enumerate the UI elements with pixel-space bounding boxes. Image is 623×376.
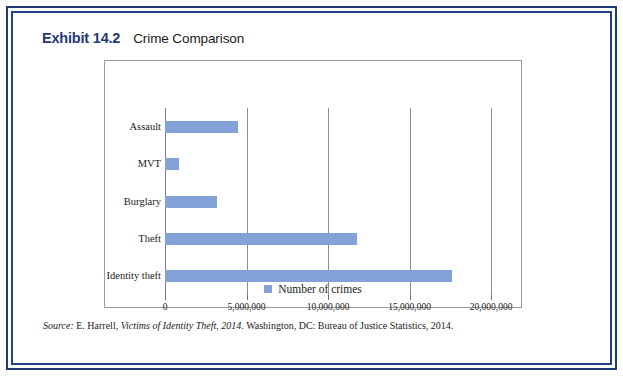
bar [165, 270, 452, 282]
chart-bars: AssaultMVTBurglaryTheftIdentity theft [165, 108, 491, 295]
chart-plot-area: AssaultMVTBurglaryTheftIdentity theft 05… [165, 108, 491, 303]
bar-row: Assault [165, 121, 238, 133]
bar-category-label: Identity theft [106, 270, 161, 282]
exhibit-number: Exhibit 14.2 [42, 30, 120, 46]
source-author: E. Harrell, [74, 320, 121, 331]
exhibit-figure: Exhibit 14.2Crime Comparison AssaultMVTB… [0, 0, 623, 376]
bar [165, 121, 238, 133]
chart-x-axis: 05,000,00010,000,00015,000,00020,000,000 [165, 295, 491, 303]
bar-row: Burglary [165, 196, 217, 208]
x-tick-label: 20,000,000 [470, 302, 513, 312]
exhibit-title: Crime Comparison [133, 31, 244, 46]
x-tick-mark [491, 295, 492, 300]
legend-color-swatch [264, 285, 272, 293]
source-work-title: Victims of Identity Theft, 2014 [121, 320, 242, 331]
bar-category-label: Theft [138, 233, 161, 245]
chart-legend: Number of crimes [105, 283, 521, 295]
x-tick-label: 15,000,000 [388, 302, 431, 312]
x-tick-mark [410, 295, 411, 300]
bar [165, 158, 179, 170]
bar-category-label: Assault [130, 121, 162, 133]
bar-category-label: MVT [138, 158, 161, 170]
source-prefix: Source: [43, 320, 74, 331]
bar [165, 233, 357, 245]
source-publisher: . Washington, DC: Bureau of Justice Stat… [241, 320, 453, 331]
bar-category-label: Burglary [124, 196, 161, 208]
bar-row: MVT [165, 158, 179, 170]
x-tick-mark [328, 295, 329, 300]
source-note: Source: E. Harrell, Victims of Identity … [43, 319, 588, 332]
x-tick-label: 10,000,000 [307, 302, 350, 312]
exhibit-header: Exhibit 14.2Crime Comparison [42, 29, 244, 47]
legend-label: Number of crimes [278, 283, 362, 295]
x-tick-label: 5,000,000 [228, 302, 266, 312]
gridline-4 [491, 108, 492, 295]
x-tick-label: 0 [163, 302, 168, 312]
x-tick-mark [247, 295, 248, 300]
chart-plot-frame: AssaultMVTBurglaryTheftIdentity theft 05… [104, 60, 522, 308]
bar-row: Theft [165, 233, 357, 245]
x-tick-mark [165, 295, 166, 300]
bar [165, 196, 217, 208]
bar-row: Identity theft [165, 270, 452, 282]
